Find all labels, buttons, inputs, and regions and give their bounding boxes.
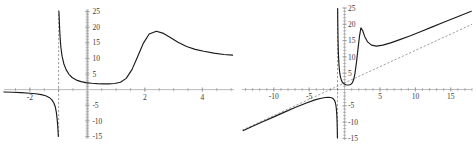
- y-tick-label: 25: [348, 4, 356, 13]
- y-tick-label: 10: [92, 54, 100, 63]
- curve-branch-right: [338, 9, 472, 85]
- plot-svg: -10-551015-15-10-5510152025: [238, 0, 476, 150]
- x-tick-label: 10: [412, 92, 420, 101]
- y-tick-label: 10: [348, 53, 356, 62]
- y-tick-label: 20: [92, 23, 100, 32]
- x-tick-label: 5: [378, 92, 382, 101]
- x-tick-label: 15: [447, 92, 455, 101]
- x-tick-label: 2: [143, 93, 147, 102]
- y-tick-label: 20: [348, 20, 356, 29]
- figure-container: -224-15-10-5510152025 -10-551015-15-10-5…: [0, 0, 476, 150]
- y-tick-label: 15: [348, 36, 356, 45]
- plot-svg: -224-15-10-5510152025: [0, 0, 238, 150]
- y-tick-label: 5: [348, 69, 352, 78]
- y-tick-label: -10: [92, 117, 102, 126]
- plot-panel-left: -224-15-10-5510152025: [0, 0, 238, 150]
- curve-branch-right: [59, 12, 233, 84]
- y-tick-label: 5: [92, 70, 96, 79]
- y-tick-label: 15: [92, 38, 100, 47]
- y-tick-label: -5: [92, 101, 98, 110]
- y-tick-label: -10: [348, 118, 358, 127]
- y-tick-label: 25: [92, 7, 100, 16]
- x-tick-label: -10: [269, 92, 279, 101]
- y-tick-label: -15: [348, 134, 358, 143]
- slant-asymptote: [242, 24, 472, 130]
- x-tick-label: -5: [306, 92, 312, 101]
- y-tick-label: -5: [348, 101, 354, 110]
- plot-panel-right: -10-551015-15-10-5510152025: [238, 0, 476, 150]
- curve-branch-left: [243, 97, 337, 138]
- y-tick-label: -15: [92, 132, 102, 141]
- x-tick-label: 4: [201, 93, 205, 102]
